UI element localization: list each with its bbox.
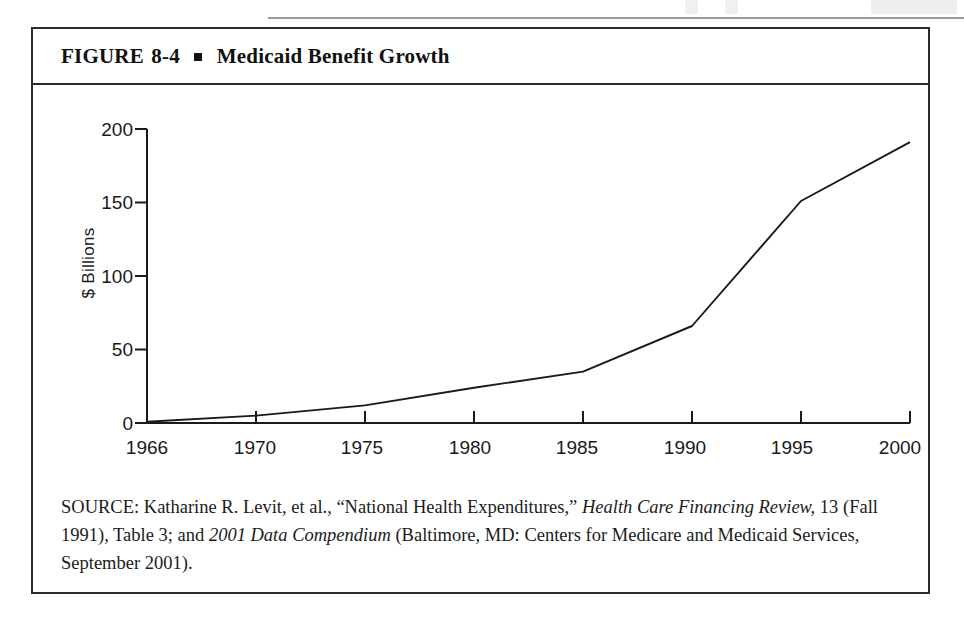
- source-text-1: Katharine R. Levit, et al., “National He…: [139, 497, 582, 517]
- figure-box: FIGURE 8-4 Medicaid Benefit Growth $ Bil…: [31, 27, 930, 594]
- chart-area: $ Billions 200 150 100 50 0 1966 1970 19…: [33, 85, 928, 485]
- source-label: SOURCE:: [61, 497, 139, 517]
- page-header-artifact: [300, 0, 964, 14]
- figure-title-text: Medicaid Benefit Growth: [217, 44, 450, 68]
- y-axis-ticks: [135, 129, 147, 423]
- figure-number: 8-4: [151, 44, 180, 68]
- source-italic-journal: Health Care Financing Review,: [582, 497, 815, 517]
- square-bullet-icon: [194, 53, 202, 61]
- x-axis-ticks: [147, 411, 910, 423]
- figure-label: FIGURE: [61, 44, 144, 68]
- source-italic-compendium: 2001 Data Compendium: [209, 525, 391, 545]
- data-series-line: [147, 142, 910, 422]
- page-header-rule: [268, 17, 964, 19]
- page-title: FIGURE 8-4 Medicaid Benefit Growth: [33, 44, 450, 69]
- source-note: SOURCE: Katharine R. Levit, et al., “Nat…: [61, 493, 906, 577]
- line-chart-plot: [33, 85, 928, 485]
- figure-title-bar: FIGURE 8-4 Medicaid Benefit Growth: [33, 29, 928, 85]
